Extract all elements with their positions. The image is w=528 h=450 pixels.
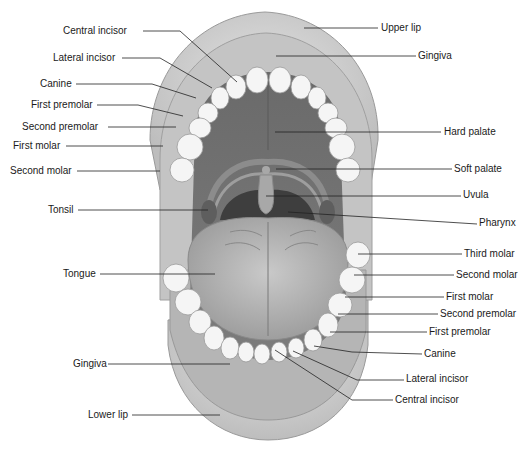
label-hard-palate: Hard palate xyxy=(444,126,496,138)
label-canine-lower: Canine xyxy=(424,348,456,360)
label-gingiva-lower: Gingiva xyxy=(73,358,107,370)
label-second-molar-lower: Second molar xyxy=(456,269,518,281)
label-second-premolar-upper: Second premolar xyxy=(22,121,98,133)
label-lateral-incisor-upper: Lateral incisor xyxy=(53,52,115,64)
label-canine-upper: Canine xyxy=(40,78,72,90)
label-first-premolar-lower: First premolar xyxy=(429,326,491,338)
label-second-molar-upper: Second molar xyxy=(10,165,72,177)
label-soft-palate: Soft palate xyxy=(454,163,502,175)
label-gingiva-upper: Gingiva xyxy=(418,50,452,62)
tonsil-left xyxy=(201,200,217,224)
label-first-molar-lower: First molar xyxy=(446,291,493,303)
label-tonsil: Tonsil xyxy=(48,204,74,216)
label-lower-lip: Lower lip xyxy=(88,409,128,421)
label-pharynx: Pharynx xyxy=(479,217,516,229)
label-second-premolar-lower: Second premolar xyxy=(440,308,516,320)
label-lateral-incisor-lower: Lateral incisor xyxy=(406,373,468,385)
label-first-molar-upper: First molar xyxy=(13,140,60,152)
label-central-incisor-lower: Central incisor xyxy=(395,394,459,406)
mouth-anatomy-diagram: Central incisor Lateral incisor Canine F… xyxy=(0,0,528,450)
tonsil-right xyxy=(319,200,335,224)
label-upper-lip: Upper lip xyxy=(381,22,421,34)
uvula xyxy=(258,175,273,214)
label-tongue: Tongue xyxy=(63,268,96,280)
label-third-molar-lower: Third molar xyxy=(464,248,515,260)
label-first-premolar-upper: First premolar xyxy=(31,99,93,111)
label-uvula: Uvula xyxy=(463,189,489,201)
label-central-incisor-upper: Central incisor xyxy=(63,25,127,37)
